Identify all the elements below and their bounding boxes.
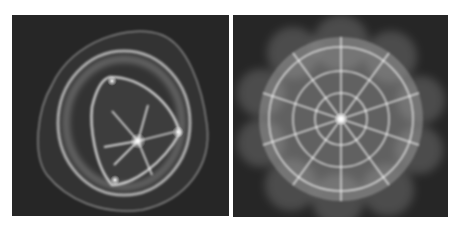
right-cymatics-image: [233, 15, 448, 217]
left-cymatics-image: [12, 15, 229, 216]
triangular-star-pattern: [12, 15, 229, 216]
radial-web-pattern: [233, 15, 448, 217]
